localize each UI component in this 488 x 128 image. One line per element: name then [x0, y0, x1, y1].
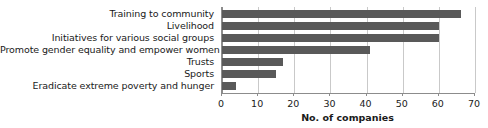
x-tick-label: 40	[354, 98, 378, 109]
x-tick-label: 20	[281, 98, 305, 109]
x-axis-title: No. of companies	[221, 112, 474, 123]
bar-row	[222, 56, 474, 68]
category-label: Livelihood	[0, 20, 218, 32]
bar-row	[222, 20, 474, 32]
bar	[222, 22, 439, 30]
bar	[222, 10, 461, 18]
plot-area	[221, 7, 474, 93]
x-tick-label: 60	[426, 98, 450, 109]
category-label: Training to community	[0, 8, 218, 20]
category-label: Sports	[0, 68, 218, 80]
bar-row	[222, 68, 474, 80]
x-tick	[257, 93, 258, 96]
x-tick-label: 0	[209, 98, 233, 109]
gridline	[475, 7, 476, 93]
category-label: Eradicate extreme poverty and hunger	[0, 80, 218, 92]
bar	[222, 70, 276, 78]
x-tick-label: 70	[462, 98, 486, 109]
bars-layer	[222, 8, 474, 92]
bar-chart: Training to community Livelihood Initiat…	[0, 0, 488, 128]
x-tick-label: 30	[317, 98, 341, 109]
x-tick-label: 50	[390, 98, 414, 109]
category-label: Trusts	[0, 56, 218, 68]
x-tick-label: 10	[245, 98, 269, 109]
x-tick	[221, 93, 222, 96]
x-tick	[402, 93, 403, 96]
bar-row	[222, 44, 474, 56]
x-axis-line	[221, 93, 474, 94]
x-tick	[329, 93, 330, 96]
bar-row	[222, 32, 474, 44]
bar	[222, 46, 370, 54]
bar	[222, 82, 236, 90]
x-tick	[474, 93, 475, 96]
bar-row	[222, 8, 474, 20]
bar	[222, 58, 283, 66]
x-tick	[293, 93, 294, 96]
x-tick	[366, 93, 367, 96]
x-tick	[438, 93, 439, 96]
category-label: Promote gender equality and empower wome…	[0, 44, 218, 56]
bar	[222, 34, 439, 42]
category-label: Initiatives for various social groups	[0, 32, 218, 44]
bar-row	[222, 80, 474, 92]
category-axis: Training to community Livelihood Initiat…	[0, 8, 218, 92]
